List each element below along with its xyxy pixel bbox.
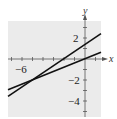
chart: y x −6 2 −2 −4	[0, 0, 117, 119]
y-tick-label-2: 2	[73, 32, 79, 44]
y-tick-label-neg2: −2	[68, 74, 80, 86]
y-tick-label-neg4: −4	[68, 95, 80, 107]
y-axis-label: y	[82, 5, 88, 16]
x-tick-label-neg6: −6	[15, 63, 27, 75]
x-axis-label: x	[108, 53, 114, 64]
